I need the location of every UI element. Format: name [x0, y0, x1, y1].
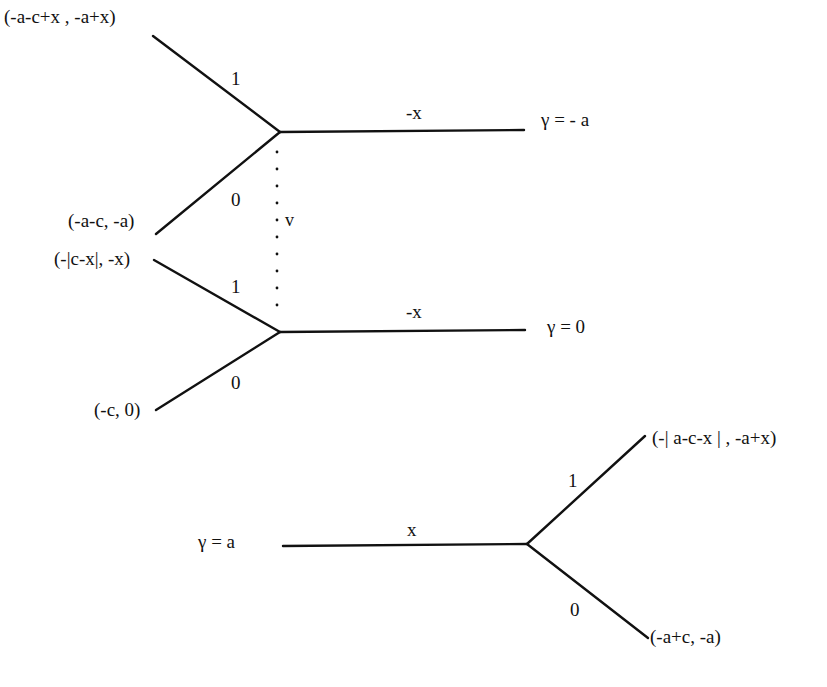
gamma-label-top: γ = - a: [541, 110, 589, 129]
branch-label-top-0: 0: [231, 190, 241, 209]
branch-label-lower-0: 0: [570, 600, 580, 619]
edge-top-branch-0: [156, 132, 280, 234]
branch-label-mid-0: 0: [231, 373, 241, 392]
branch-label-top-1: 1: [231, 69, 241, 88]
payoff-lower-branch-1: (-| a-c-x | , -a+x): [652, 428, 776, 447]
edge-top-branch-1: [153, 36, 280, 132]
gamma-label-mid: γ = 0: [547, 317, 585, 336]
edge-mid-branch-1: [154, 260, 280, 332]
stem-label-lower: x: [407, 520, 417, 539]
payoff-mid-branch-1: (-|c-x|, -x): [54, 249, 130, 268]
gamma-label-lower: γ = a: [198, 532, 235, 551]
edge-mid-branch-0: [156, 332, 280, 410]
game-tree-diagram: (-a-c+x , -a+x) 1 0 (-a-c, -a) -x γ = - …: [0, 0, 827, 687]
edge-top-stem: [280, 130, 524, 132]
edge-lower-stem: [283, 544, 527, 546]
stem-label-mid: -x: [406, 302, 422, 321]
edge-lower-branch-1: [527, 436, 645, 544]
payoff-lower-branch-0: (-a+c, -a): [650, 627, 721, 646]
payoff-top-branch-1: (-a-c+x , -a+x): [4, 7, 116, 26]
payoff-top-branch-0: (-a-c, -a): [68, 211, 134, 230]
edge-lower-branch-0: [527, 544, 648, 638]
branch-label-mid-1: 1: [231, 277, 241, 296]
branch-label-lower-1: 1: [568, 471, 578, 490]
stem-label-top: -x: [406, 103, 422, 122]
edge-mid-stem: [280, 330, 525, 332]
information-set-label: v: [285, 211, 294, 229]
information-set-dotted-line: [276, 151, 279, 307]
payoff-mid-branch-0: (-c, 0): [94, 400, 140, 419]
